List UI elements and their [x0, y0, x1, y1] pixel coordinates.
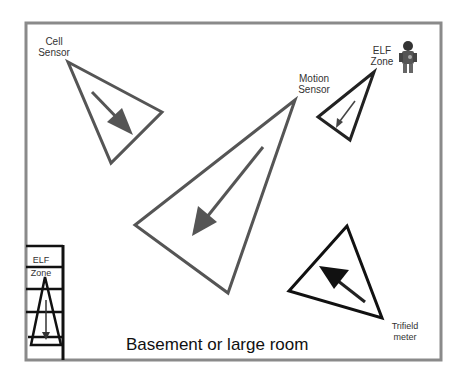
label-line: meter: [385, 332, 425, 343]
label-line: ELF: [367, 45, 397, 56]
label-line: Sensor: [34, 47, 74, 58]
label-line: Zone: [367, 56, 397, 67]
trifield-meter-label: Trifield meter: [385, 321, 425, 343]
label-line: Trifield: [385, 321, 425, 332]
cell-sensor-label: Cell Sensor: [34, 36, 74, 58]
elf-zone-top-label: ELF Zone: [367, 45, 397, 67]
label-line: Zone: [27, 267, 55, 280]
motion-sensor-label: Motion Sensor: [294, 73, 334, 95]
label-line: Motion: [294, 73, 334, 84]
label-line: ELF: [27, 254, 55, 267]
elf-zone-stairs-label: ELF Zone: [27, 254, 55, 280]
label-line: Sensor: [294, 84, 334, 95]
room-title: Basement or large room: [126, 335, 308, 355]
label-line: Cell: [34, 36, 74, 47]
